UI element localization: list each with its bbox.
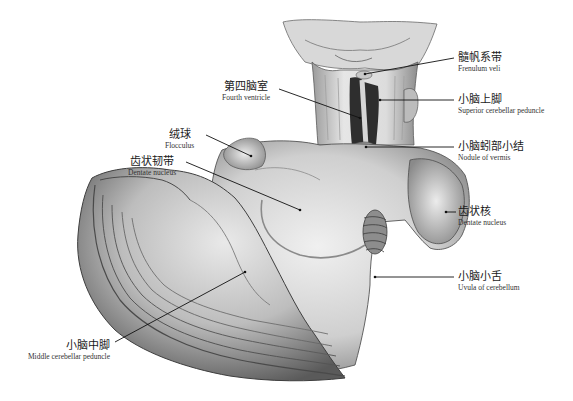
label-zh: 绒球 xyxy=(165,129,194,140)
label-en: Dentate nucleus xyxy=(128,169,176,177)
label-en: Flocculus xyxy=(165,142,194,150)
label-zh: 小脑蚓部小结 xyxy=(458,141,524,152)
label-en: Dentate nucleus xyxy=(458,219,506,227)
label-middle-cerebellar-peduncle: 小脑中脚 Middle cerebellar peduncle xyxy=(28,340,110,361)
label-zh: 小脑小舌 xyxy=(458,271,520,282)
label-en: Uvula of cerebellum xyxy=(458,284,520,292)
label-en: Nodule of vermis xyxy=(458,154,524,162)
label-zh: 髓帆系带 xyxy=(458,52,502,63)
label-en: Superior cerebellar peduncle xyxy=(458,107,544,115)
label-zh: 第四脑室 xyxy=(222,81,270,92)
label-en: Middle cerebellar peduncle xyxy=(28,353,110,361)
label-zh: 小脑中脚 xyxy=(28,340,110,351)
brainstem-top xyxy=(283,20,437,70)
right-lateral-knob xyxy=(404,89,418,123)
uvula-folia xyxy=(363,210,387,254)
label-fourth-ventricle: 第四脑室 Fourth ventricle xyxy=(222,81,270,102)
figure-caption-cropped: ···· ··· ···· ·· ··· ·· ·· ··· ······· ·… xyxy=(300,392,573,398)
label-en: Fourth ventricle xyxy=(222,94,270,102)
label-flocculus: 绒球 Flocculus xyxy=(165,129,194,150)
label-zh: 齿状核 xyxy=(458,206,506,217)
label-dentate-ligament: 齿状韧带 Dentate nucleus xyxy=(128,156,176,177)
label-frenulum-veli: 髓帆系带 Frenulum veli xyxy=(458,52,502,73)
label-zh: 小脑上脚 xyxy=(458,94,544,105)
label-uvula-of-cerebellum: 小脑小舌 Uvula of cerebellum xyxy=(458,271,520,292)
label-superior-cerebellar-peduncle: 小脑上脚 Superior cerebellar peduncle xyxy=(458,94,544,115)
label-nodule-of-vermis: 小脑蚓部小结 Nodule of vermis xyxy=(458,141,524,162)
label-zh: 齿状韧带 xyxy=(128,156,176,167)
label-en: Frenulum veli xyxy=(458,65,502,73)
label-dentate-nucleus: 齿状核 Dentate nucleus xyxy=(458,206,506,227)
